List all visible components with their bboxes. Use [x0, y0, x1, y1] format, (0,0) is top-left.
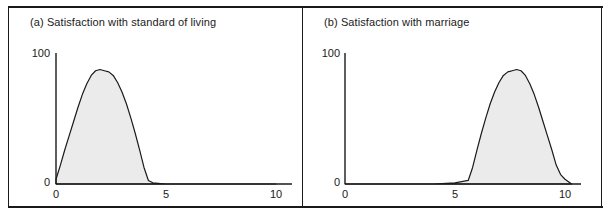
figure-frame-bottom [8, 206, 603, 208]
panel-a-area-curve [56, 70, 276, 184]
panel-a-plot [8, 6, 302, 206]
panel-b-area-curve [345, 70, 572, 184]
panel-b-ytick-100: 100 [308, 47, 340, 59]
panel-b-plot [302, 6, 603, 206]
panel-a-xtick-0: 0 [46, 188, 66, 200]
panel-a-xtick-10: 10 [266, 188, 286, 200]
panel-b-svg [302, 6, 603, 206]
panel-b: (b) Satisfaction with marriage 100 0 0 5… [302, 6, 603, 206]
panel-a-svg [8, 6, 302, 206]
panel-a-ytick-0: 0 [18, 176, 50, 188]
figure-container: (a) Satisfaction with standard of living… [0, 0, 609, 218]
panel-a-curve-group [56, 70, 276, 184]
panel-a: (a) Satisfaction with standard of living… [8, 6, 302, 206]
panel-b-xtick-0: 0 [335, 188, 355, 200]
panel-b-xtick-5: 5 [445, 188, 465, 200]
panel-b-ytick-0: 0 [308, 176, 340, 188]
panel-a-xtick-5: 5 [156, 188, 176, 200]
panel-b-xtick-10: 10 [555, 188, 575, 200]
panel-a-ytick-100: 100 [18, 47, 50, 59]
panel-b-curve-group [345, 70, 572, 184]
